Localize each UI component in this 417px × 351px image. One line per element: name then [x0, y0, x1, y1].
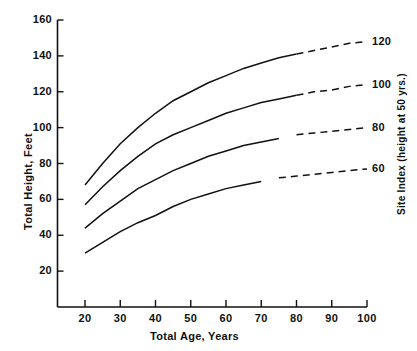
right-axis-title: Site Index (height at 50 yrs.): [396, 73, 407, 215]
y-tick-label: 100: [18, 121, 52, 133]
x-axis-title: Total Age, Years: [150, 330, 239, 342]
x-tick-label: 30: [105, 312, 135, 324]
curve-dashed-si-120: [297, 42, 368, 55]
x-tick-label: 60: [211, 312, 241, 324]
chart-container: 20406080100120140160 2030405060708090100…: [0, 0, 417, 351]
x-axis-ticks: [85, 300, 367, 307]
curve-dashed-si-80: [297, 128, 368, 135]
data-curves: [85, 42, 367, 254]
x-tick-label: 90: [317, 312, 347, 324]
y-tick-label: 160: [18, 13, 52, 25]
y-axis-title: Total Height, Feet: [22, 133, 34, 230]
y-tick-label: 140: [18, 49, 52, 61]
x-tick-label: 20: [70, 312, 100, 324]
curve-dashed-si-60: [279, 169, 367, 178]
x-tick-label: 70: [246, 312, 276, 324]
curve-solid-si-120: [85, 54, 297, 185]
curve-solid-si-100: [85, 95, 297, 204]
site-index-label-120: 120: [372, 35, 406, 47]
y-axis-ticks: [58, 20, 64, 271]
y-tick-label: 20: [18, 264, 52, 276]
y-tick-label: 120: [18, 85, 52, 97]
axis-lines: [58, 20, 368, 307]
x-tick-label: 40: [141, 312, 171, 324]
curve-solid-si-60: [85, 181, 261, 253]
x-tick-label: 100: [352, 312, 382, 324]
y-tick-label: 40: [18, 228, 52, 240]
chart-plot-area: [0, 0, 417, 351]
x-tick-label: 50: [176, 312, 206, 324]
x-tick-label: 80: [282, 312, 312, 324]
curve-dashed-si-100: [297, 85, 368, 96]
